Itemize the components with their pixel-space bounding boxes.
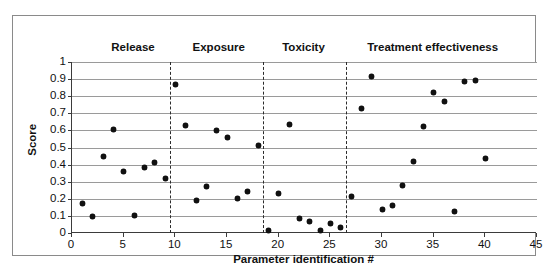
y-axis-tick: [68, 148, 72, 149]
y-axis-tick-label: 0.5: [50, 142, 66, 154]
gridline-horizontal: [72, 182, 537, 183]
gridline-horizontal: [72, 130, 537, 131]
data-point: [256, 143, 261, 148]
section-labels: ReleaseExposureToxicityTreatment effecti…: [13, 42, 549, 58]
y-axis-tick: [68, 182, 72, 183]
gridline-horizontal: [72, 216, 537, 217]
y-axis-tick: [68, 62, 72, 63]
x-axis-tick: [71, 233, 72, 237]
data-point: [245, 189, 250, 194]
y-axis-tick-label: 0.7: [50, 107, 66, 119]
data-point: [276, 191, 281, 196]
x-axis-tick-label: 25: [323, 239, 336, 251]
y-axis-tick-label: 0.3: [50, 176, 66, 188]
data-point: [80, 201, 85, 206]
gridline-horizontal: [72, 96, 537, 97]
y-axis-tick: [68, 216, 72, 217]
data-point: [142, 165, 147, 170]
x-axis-tick: [174, 233, 175, 237]
data-point: [183, 123, 188, 128]
x-axis-tick-label: 30: [375, 239, 388, 251]
section-divider: [346, 62, 347, 233]
data-point: [452, 209, 457, 214]
data-point: [111, 127, 116, 132]
y-axis-tick-label: 0.9: [50, 73, 66, 85]
gridline-horizontal: [72, 199, 537, 200]
y-axis-tick-label: 0.2: [50, 193, 66, 205]
data-point: [473, 78, 478, 83]
x-axis-tick-label: 15: [220, 239, 233, 251]
y-axis-tick-label: 0.6: [50, 124, 66, 136]
x-axis-tick: [226, 233, 227, 237]
x-axis-tick-label: 0: [68, 239, 74, 251]
x-axis-tick: [278, 233, 279, 237]
data-point: [390, 203, 395, 208]
y-axis-tick-label: 0.4: [50, 159, 66, 171]
y-axis-tick: [68, 165, 72, 166]
data-point: [287, 122, 292, 127]
section-divider: [170, 62, 171, 233]
figure-container: ReleaseExposureToxicityTreatment effecti…: [0, 0, 549, 270]
x-axis-tick: [484, 233, 485, 237]
data-point: [225, 135, 230, 140]
data-point: [411, 159, 416, 164]
y-axis-tick: [68, 130, 72, 131]
y-axis-tick: [68, 113, 72, 114]
section-divider: [263, 62, 264, 233]
data-point: [297, 216, 302, 221]
data-point: [483, 156, 488, 161]
x-axis-tick: [123, 233, 124, 237]
data-point: [132, 213, 137, 218]
y-axis-title: Score: [27, 110, 39, 170]
section-label: Toxicity: [282, 42, 325, 54]
data-point: [400, 183, 405, 188]
x-axis-tick: [433, 233, 434, 237]
gridline-horizontal: [72, 62, 537, 63]
x-axis-tick: [536, 233, 537, 237]
data-point: [338, 225, 343, 230]
gridline-horizontal: [72, 79, 537, 80]
x-axis-tick-label: 40: [478, 239, 491, 251]
data-point: [121, 169, 126, 174]
data-point: [163, 176, 168, 181]
y-axis-tick-label: 0.1: [50, 210, 66, 222]
x-axis-tick: [381, 233, 382, 237]
data-point: [204, 184, 209, 189]
x-axis-tick-label: 5: [119, 239, 125, 251]
section-label: Exposure: [193, 42, 245, 54]
section-label: Release: [111, 42, 154, 54]
data-point: [421, 124, 426, 129]
data-point: [431, 90, 436, 95]
y-axis-tick-label: 1: [60, 56, 66, 68]
data-point: [214, 128, 219, 133]
data-point: [442, 99, 447, 104]
x-axis-tick-label: 20: [271, 239, 284, 251]
x-axis-tick-label: 10: [168, 239, 181, 251]
data-point: [173, 82, 178, 87]
plot-area: [71, 62, 536, 233]
y-axis-tick: [68, 79, 72, 80]
data-point: [194, 198, 199, 203]
data-point: [235, 196, 240, 201]
data-point: [328, 221, 333, 226]
x-axis-tick: [329, 233, 330, 237]
section-label: Treatment effectiveness: [367, 42, 498, 54]
y-axis-tick: [68, 199, 72, 200]
data-point: [101, 154, 106, 159]
chart-frame: ReleaseExposureToxicityTreatment effecti…: [12, 15, 536, 256]
data-point: [349, 194, 354, 199]
x-axis-title: Parameter identification #: [71, 254, 536, 266]
data-point: [359, 106, 364, 111]
x-axis-tick-label: 35: [426, 239, 439, 251]
y-axis-tick: [68, 96, 72, 97]
y-axis-tick-label: 0.8: [50, 90, 66, 102]
y-axis-tick-label: 0: [60, 227, 66, 239]
data-point: [462, 79, 467, 84]
data-point: [90, 214, 95, 219]
gridline-horizontal: [72, 148, 537, 149]
data-point: [307, 219, 312, 224]
gridline-horizontal: [72, 113, 537, 114]
data-point: [380, 207, 385, 212]
x-axis-tick-label: 45: [530, 239, 543, 251]
